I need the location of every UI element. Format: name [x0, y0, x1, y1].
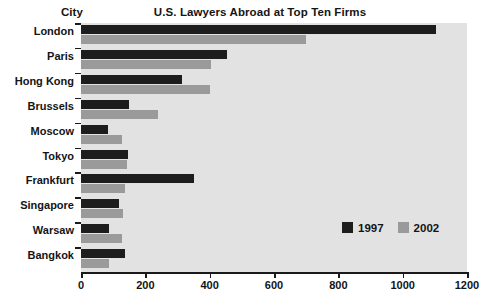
x-axis-tick — [338, 272, 340, 278]
category-row: Moscow — [0, 123, 488, 148]
y-axis-tick-label: Warsaw — [0, 224, 74, 236]
x-axis-tick-label: 200 — [125, 279, 165, 291]
bar-1997-brussels — [81, 100, 129, 109]
x-axis-tick-label: 400 — [190, 279, 230, 291]
legend-label: 2002 — [414, 222, 440, 234]
category-row: Frankfurt — [0, 172, 488, 197]
x-axis-tick — [467, 272, 469, 278]
y-axis-tick-label: Singapore — [0, 199, 74, 211]
y-axis-tick-label: Tokyo — [0, 150, 74, 162]
y-axis-tick-label: Moscow — [0, 125, 74, 137]
x-axis-tick — [403, 272, 405, 278]
bar-2002-london — [81, 35, 306, 44]
bar-2002-brussels — [81, 110, 158, 119]
category-row: Tokyo — [0, 148, 488, 173]
bar-2002-bangkok — [81, 259, 109, 268]
y-axis-tick-label: Hong Kong — [0, 75, 74, 87]
x-axis-tick-label: 800 — [318, 279, 358, 291]
bar-2002-paris — [81, 60, 211, 69]
x-axis-tick-label: 600 — [254, 279, 294, 291]
category-row: London — [0, 23, 488, 48]
legend-item-2002: 2002 — [398, 222, 440, 234]
category-row: Brussels — [0, 98, 488, 123]
category-row: Paris — [0, 48, 488, 73]
x-axis-tick — [145, 272, 147, 278]
bar-1997-hong-kong — [81, 75, 182, 84]
x-axis-tick-label: 1000 — [383, 279, 423, 291]
y-axis-tick-label: London — [0, 25, 74, 37]
bar-1997-singapore — [81, 199, 119, 208]
category-row: Bangkok — [0, 247, 488, 272]
chart-legend: 19972002 — [342, 221, 439, 234]
y-axis-tick-label: Frankfurt — [0, 174, 74, 186]
bar-2002-tokyo — [81, 160, 127, 169]
y-axis-tick-label: Bangkok — [0, 249, 74, 261]
legend-label: 1997 — [358, 222, 384, 234]
x-axis-tick-label: 1200 — [447, 279, 487, 291]
y-axis-tick-label: Brussels — [0, 100, 74, 112]
bar-2002-frankfurt — [81, 184, 125, 193]
bar-1997-tokyo — [81, 150, 128, 159]
chart-title: U.S. Lawyers Abroad at Top Ten Firms — [130, 6, 390, 18]
bar-2002-warsaw — [81, 234, 122, 243]
bar-1997-london — [81, 25, 436, 34]
bar-2002-hong-kong — [81, 85, 210, 94]
x-axis-tick — [210, 272, 212, 278]
legend-swatch-icon-1997 — [342, 222, 353, 233]
y-axis-tick-label: Paris — [0, 50, 74, 62]
bar-2002-singapore — [81, 209, 123, 218]
bar-1997-paris — [81, 50, 227, 59]
bar-2002-moscow — [81, 135, 122, 144]
category-row: Hong Kong — [0, 73, 488, 98]
bar-1997-frankfurt — [81, 174, 194, 183]
legend-swatch-icon-2002 — [398, 222, 409, 233]
category-row: Singapore — [0, 197, 488, 222]
legend-item-1997: 1997 — [342, 222, 384, 234]
x-axis-tick — [81, 272, 83, 278]
x-axis-tick-label: 0 — [61, 279, 101, 291]
bar-1997-warsaw — [81, 224, 109, 233]
bar-1997-moscow — [81, 125, 108, 134]
bar-chart: City U.S. Lawyers Abroad at Top Ten Firm… — [0, 0, 488, 296]
y-axis-title: City — [52, 6, 92, 18]
bar-1997-bangkok — [81, 249, 125, 258]
x-axis-tick — [274, 272, 276, 278]
